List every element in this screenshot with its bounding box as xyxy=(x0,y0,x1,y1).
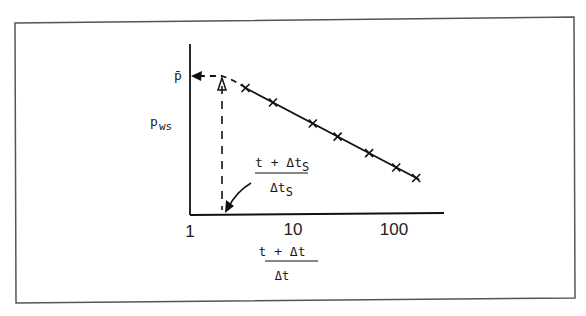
annotation-denominator: ΔtS xyxy=(270,180,293,199)
annotation-numerator: t + ΔtS xyxy=(255,155,309,174)
data-point-x-marker xyxy=(412,174,420,182)
horner-plot-diagram: 1 10 100 t + Δt Δt p̄ p ws t + ΔtS ΔtS xyxy=(0,0,586,316)
y-axis-label: p ws xyxy=(150,114,172,133)
annotation-dimensionless-time: t + ΔtS ΔtS xyxy=(225,155,309,213)
x-tick-label: 100 xyxy=(380,220,408,239)
arrowhead-to-pbar xyxy=(191,71,202,81)
y-marker-label-pbar: p̄ xyxy=(174,68,182,83)
x-axis xyxy=(190,213,444,215)
annotation-arrowhead xyxy=(225,200,234,213)
data-point-x-marker xyxy=(392,163,400,171)
x-axis-label-numerator: t + Δt xyxy=(259,244,306,259)
x-tick-label: 1 xyxy=(185,222,194,241)
data-point-x-marker xyxy=(309,119,317,127)
data-point-x-marker xyxy=(241,84,249,92)
data-point-x-marker xyxy=(365,149,373,157)
data-point-x-marker xyxy=(269,98,277,106)
x-axis-label-denominator: Δt xyxy=(275,269,289,283)
data-point-x-marker xyxy=(334,133,342,141)
y-axis-label-main: p xyxy=(150,114,158,129)
y-axis-label-subscript: ws xyxy=(159,120,172,133)
x-tick-label: 10 xyxy=(284,220,303,239)
